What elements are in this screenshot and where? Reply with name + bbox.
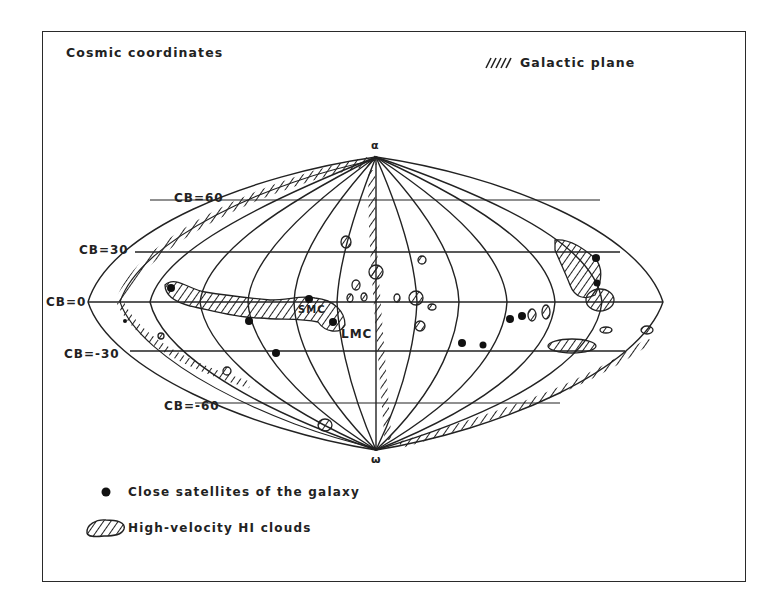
latitude-label-minus-30: CB=-30	[64, 347, 120, 361]
hatched-blob-icon	[84, 517, 128, 539]
legend-item-satellites: Close satellites of the galaxy	[84, 485, 360, 499]
lmc-label: LMC	[341, 327, 372, 341]
legend-label-hi-clouds: High-velocity HI clouds	[128, 521, 312, 535]
latitude-label-0: CB=0	[46, 295, 86, 309]
latitude-label-60: CB=60	[174, 191, 224, 205]
legend-item-hi-clouds: High-velocity HI clouds	[84, 517, 312, 539]
pole-label-top: α	[371, 139, 380, 152]
legend-label-satellites: Close satellites of the galaxy	[128, 485, 360, 499]
filled-dot-icon	[84, 486, 128, 498]
smc-label: SMC	[298, 304, 326, 315]
latitude-label-minus-60: CB=-60	[164, 399, 220, 413]
pole-label-bottom: ω	[371, 453, 382, 466]
latitude-label-30: CB=30	[79, 243, 129, 257]
